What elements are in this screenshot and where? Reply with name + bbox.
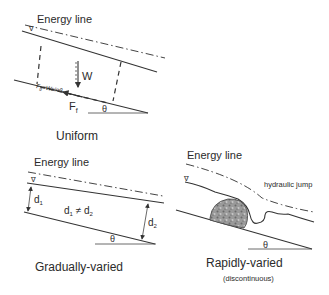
panel-title-gradually-varied: Gradually-varied bbox=[35, 260, 123, 274]
boulder-obstruction bbox=[210, 199, 248, 228]
depth-relation-label: d1 ≠ d2 bbox=[64, 205, 94, 217]
friction-force-label: Ff bbox=[69, 100, 78, 114]
panel-gradually-varied: Energy line ∇ θ d1 d2 d1 ≠ d2 Gradually-… bbox=[24, 156, 164, 274]
angle-theta-label: θ bbox=[263, 240, 268, 250]
energy-line-label: Energy line bbox=[187, 149, 242, 161]
panel-title-uniform: Uniform bbox=[56, 129, 98, 143]
panel-title-rapidly-varied: Rapidly-varied bbox=[206, 256, 283, 270]
energy-line-label: Energy line bbox=[34, 156, 89, 168]
water-surface-icon: ∇ bbox=[183, 175, 189, 182]
control-volume-right bbox=[113, 62, 121, 101]
energy-line bbox=[28, 172, 163, 196]
water-surface bbox=[27, 183, 164, 203]
weight-label: W bbox=[82, 70, 93, 82]
hydraulic-jump-label: hydraulic jump bbox=[264, 180, 312, 189]
water-surface-icon: ∇ bbox=[28, 25, 34, 32]
panel-uniform: Energy line ∇ θ W Fg=Wsinθ Ff Uniform bbox=[14, 13, 165, 143]
control-volume-left bbox=[37, 46, 41, 84]
panel-rapidly-varied: Energy line ∇ θ hydraulic jump Rapidly-v… bbox=[176, 149, 314, 283]
panel-subtitle-discontinuous: (discontinuous) bbox=[223, 274, 274, 283]
angle-theta-label: θ bbox=[110, 234, 115, 244]
depth-d1-arrow bbox=[28, 187, 31, 211]
friction-force-arrow bbox=[63, 92, 82, 97]
energy-line-label: Energy line bbox=[37, 13, 92, 25]
depth-d1-label: d1 bbox=[34, 194, 44, 206]
angle-theta-label: θ bbox=[102, 104, 107, 114]
water-surface-icon: ∇ bbox=[30, 176, 36, 183]
depth-d2-label: d2 bbox=[148, 217, 158, 229]
open-channel-flow-diagram: Energy line ∇ θ W Fg=Wsinθ Ff Uniform En… bbox=[0, 0, 329, 295]
